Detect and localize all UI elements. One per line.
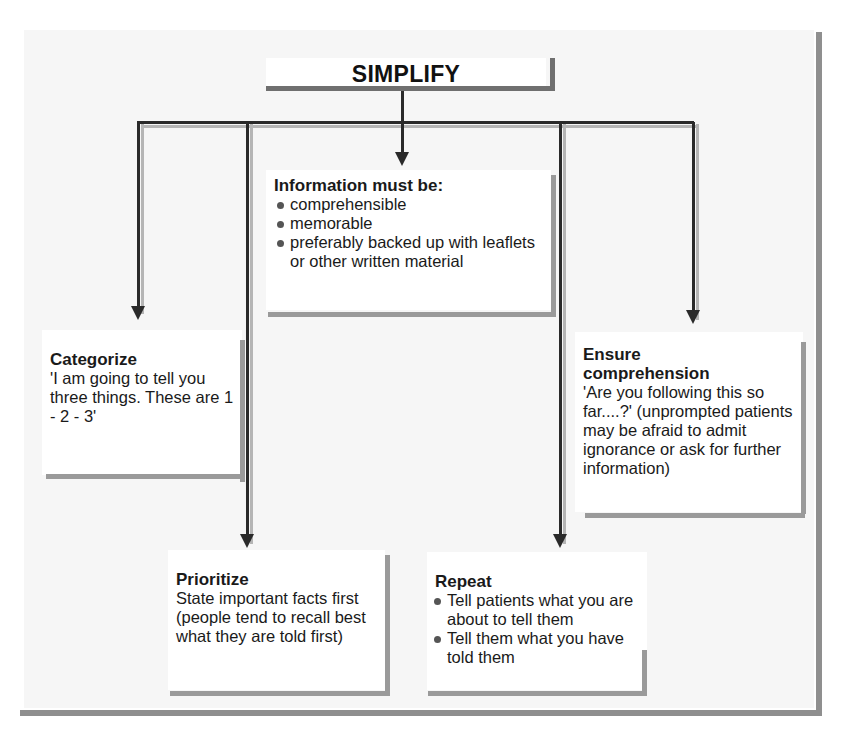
connector-shadow — [696, 124, 699, 320]
list-item: comprehensible — [274, 195, 543, 214]
title-underline — [266, 86, 554, 91]
box-shadow — [268, 312, 556, 317]
information-box: Information must be: comprehensible memo… — [266, 170, 551, 310]
box-shadow — [585, 513, 805, 518]
box-shadow — [46, 474, 242, 479]
prioritize-body: State important facts first (people tend… — [176, 589, 377, 646]
connector-shadow — [141, 124, 144, 314]
box-shadow — [240, 340, 245, 482]
prioritize-heading: Prioritize — [176, 570, 377, 589]
connector-to-repeat — [559, 122, 562, 536]
connector-horizontal — [137, 121, 694, 124]
repeat-box: Repeat Tell patients what you are about … — [427, 552, 647, 690]
connector-shadow — [563, 124, 566, 544]
connector-title-stem — [401, 91, 404, 123]
arrow-down-icon — [395, 152, 409, 166]
ensure-comprehension-box: Ensure comprehension 'Are you following … — [575, 332, 803, 512]
list-item: Tell patients what you are about to tell… — [431, 591, 639, 629]
connector-to-ensure — [692, 122, 695, 312]
connector-to-categorize — [137, 122, 140, 308]
box-shadow — [170, 691, 390, 696]
repeat-heading: Repeat — [435, 572, 639, 591]
box-shadow — [428, 691, 647, 696]
categorize-box: Categorize 'I am going to tell you three… — [42, 330, 242, 475]
list-item: preferably backed up with leaflets or ot… — [274, 233, 543, 271]
connector-to-prioritize — [246, 122, 249, 536]
categorize-body: 'I am going to tell you three things. Th… — [50, 369, 234, 426]
prioritize-box: Prioritize State important facts first (… — [168, 550, 385, 690]
connector-horizontal-shadow — [141, 125, 696, 128]
list-item: Tell them what you have told them — [431, 629, 639, 667]
frame-shadow-bottom — [20, 710, 822, 716]
repeat-list: Tell patients what you are about to tell… — [431, 591, 639, 667]
information-list: comprehensible memorable preferably back… — [274, 195, 543, 271]
box-shadow — [801, 342, 806, 514]
ensure-comprehension-body: 'Are you following this so far....?' (un… — [583, 383, 795, 478]
information-heading: Information must be: — [274, 176, 543, 195]
ensure-comprehension-heading: Ensure comprehension — [583, 345, 763, 383]
connector-shadow — [250, 124, 253, 544]
diagram-title: SIMPLIFY — [352, 61, 460, 87]
frame-shadow-right — [816, 32, 822, 716]
arrow-down-icon — [553, 534, 567, 548]
arrow-down-icon — [686, 310, 700, 324]
list-item: memorable — [274, 214, 543, 233]
box-shadow — [551, 175, 556, 315]
arrow-down-icon — [131, 306, 145, 320]
categorize-heading: Categorize — [50, 350, 234, 369]
connector-to-information — [401, 122, 404, 154]
title-right-bar — [550, 58, 555, 91]
box-shadow — [642, 650, 647, 695]
box-shadow — [385, 555, 390, 695]
arrow-down-icon — [240, 534, 254, 548]
